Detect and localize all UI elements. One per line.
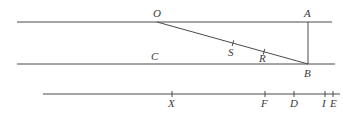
point-label-X: X bbox=[167, 97, 176, 109]
diagram-canvas: OACSRBXFDIE bbox=[0, 0, 351, 115]
geometry-diagram: OACSRBXFDIE bbox=[0, 0, 351, 115]
point-label-E: E bbox=[329, 97, 337, 109]
point-label-O: O bbox=[153, 7, 161, 19]
point-label-A: A bbox=[303, 7, 311, 19]
point-label-F: F bbox=[260, 97, 268, 109]
point-label-R: R bbox=[258, 52, 266, 64]
point-label-I: I bbox=[321, 97, 327, 109]
point-label-B: B bbox=[304, 67, 311, 79]
point-label-C: C bbox=[151, 50, 159, 62]
point-label-D: D bbox=[289, 97, 298, 109]
lines-group bbox=[17, 22, 340, 94]
point-label-S: S bbox=[228, 46, 234, 58]
